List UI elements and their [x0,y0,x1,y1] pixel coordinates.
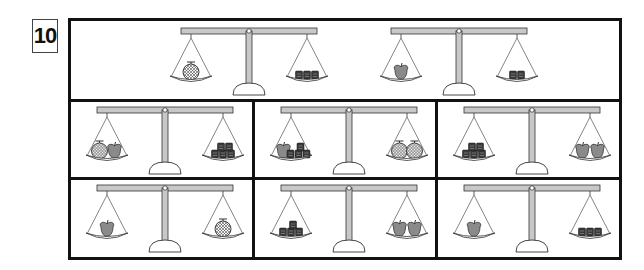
puzzle-frame [68,18,622,260]
left-pan [453,113,495,161]
box-icon [312,71,319,79]
apple-icon [576,142,589,158]
box-icon [463,150,470,158]
option-4[interactable] [71,180,252,257]
reference-scale-1 [169,25,329,97]
box-icon [279,228,286,236]
option-2[interactable] [252,102,436,177]
box-icon [518,71,525,79]
option-scale-6 [452,182,612,254]
apple-icon [394,63,407,79]
option-1[interactable] [71,102,252,177]
left-pan [270,113,312,161]
box-icon [218,143,225,151]
box-icon [295,228,302,236]
box-icon [510,71,517,79]
scale-post [346,110,352,164]
box-icon [212,150,219,158]
left-pan [453,191,495,239]
left-pan [80,113,129,161]
right-pan [496,34,538,82]
options-row-1 [71,102,619,180]
scale-base [233,83,265,95]
scale-post [162,110,168,164]
left-pan [270,191,312,239]
reference-row [71,21,619,102]
reference-scale-2 [379,25,539,97]
left-pan [86,191,128,239]
apple-icon [407,220,420,236]
apple-icon [591,142,604,158]
scale-base [333,162,365,174]
scale-post [246,31,252,85]
option-scale-4 [85,182,245,254]
box-icon [304,71,311,79]
scale-post [456,31,462,85]
question-number: 10 [32,19,58,53]
apple-icon [468,220,481,236]
box-icon [287,150,294,158]
option-scale-2 [269,104,429,176]
options-row-2 [71,180,619,257]
right-pan [569,191,611,239]
left-pan [380,34,422,82]
option-6[interactable] [435,180,619,257]
box-icon [296,71,303,79]
apple-icon [108,142,121,158]
scale-post [529,110,535,164]
scale-base [149,162,181,174]
box-icon [297,143,304,151]
option-scale-3 [452,104,612,176]
scale-base [333,240,365,252]
apple-icon [100,220,113,236]
scale-post [529,188,535,242]
option-scale-1 [85,104,245,176]
box-icon [477,143,484,151]
right-pan [386,191,428,239]
scale-base [149,240,181,252]
scale-base [516,162,548,174]
right-pan [379,113,434,161]
box-icon [226,143,233,151]
option-5[interactable] [252,180,436,257]
scale-post [162,188,168,242]
option-3[interactable] [435,102,619,177]
right-pan [202,113,244,161]
box-icon [579,228,586,236]
box-icon [469,143,476,151]
left-pan [170,34,212,82]
option-scale-5 [269,182,429,254]
scale-base [516,240,548,252]
scale-base [443,83,475,95]
apple-icon [392,220,405,236]
right-pan [286,34,328,82]
box-icon [289,221,296,229]
right-pan [569,113,611,161]
scale-post [346,188,352,242]
box-icon [587,228,594,236]
right-pan [202,191,244,239]
box-icon [595,228,602,236]
